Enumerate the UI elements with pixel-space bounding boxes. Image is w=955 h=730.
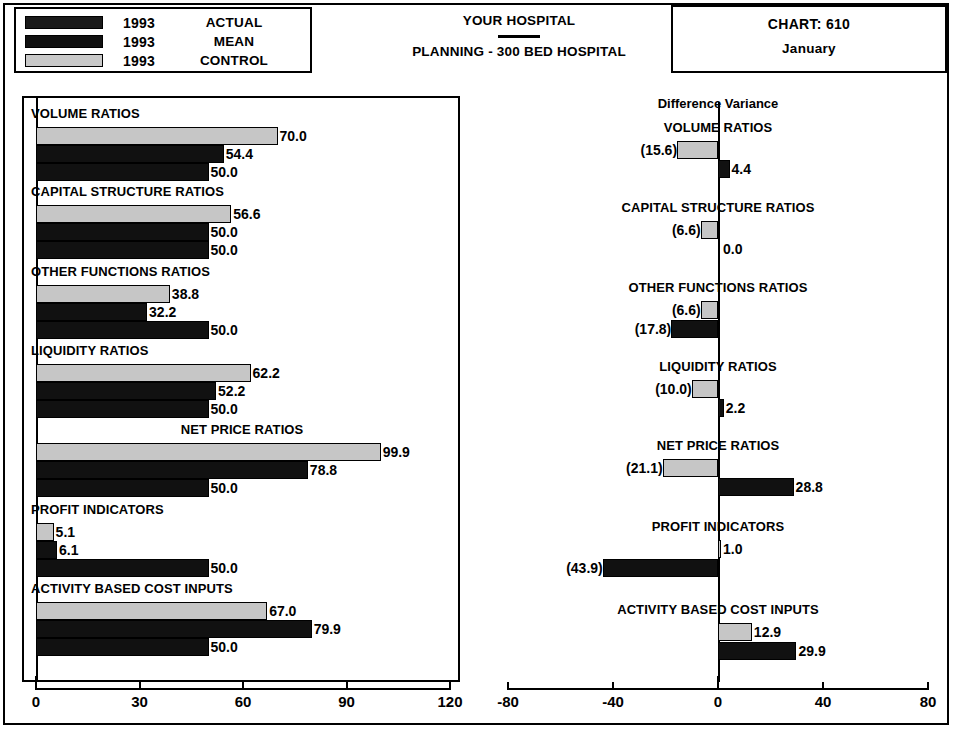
left-bar: [36, 127, 278, 145]
left-bar-value: 38.8: [172, 285, 199, 303]
axis-tick: [717, 676, 719, 690]
legend-label-mean: MEAN: [175, 34, 293, 49]
left-bar-value: 54.4: [226, 145, 253, 163]
left-bar-value: 67.0: [269, 602, 296, 620]
axis-tick-label: -80: [497, 693, 519, 710]
left-group-label: LIQUIDITY RATIOS: [24, 343, 460, 358]
title-divider: [498, 35, 540, 38]
chart-number-box: CHART: 610 January: [671, 5, 947, 73]
left-bar: [36, 303, 147, 321]
left-group-label: ACTIVITY BASED COST INPUTS: [24, 581, 460, 596]
left-group-label: CAPITAL STRUCTURE RATIOS: [24, 184, 460, 199]
left-bar: [36, 285, 170, 303]
legend-year-mean: 1993: [103, 34, 175, 50]
left-bar-value: 79.9: [314, 620, 341, 638]
right-bar-value: 29.9: [798, 642, 825, 660]
right-bar: [718, 642, 796, 660]
legend-row-actual: 1993 ACTUAL: [16, 13, 310, 32]
legend-row-mean: 1993 MEAN: [16, 32, 310, 51]
left-bar: [36, 400, 209, 418]
title-block: YOUR HOSPITAL PLANNING - 300 BED HOSPITA…: [405, 7, 633, 73]
left-bar: [36, 382, 216, 400]
plan-subtitle: PLANNING - 300 BED HOSPITAL: [405, 44, 633, 59]
left-bar-value: 56.6: [233, 205, 260, 223]
axis-tick: [822, 682, 824, 690]
right-bar-value: 2.2: [726, 399, 745, 417]
right-group-label: ACTIVITY BASED COST INPUTS: [498, 602, 938, 617]
right-bar-value: (17.8): [635, 320, 672, 338]
axis-tick-label: 40: [815, 693, 832, 710]
left-bar-value: 50.0: [211, 479, 238, 497]
left-bar: [36, 620, 312, 638]
left-bar: [36, 523, 54, 541]
legend-label-actual: ACTUAL: [175, 15, 293, 30]
axis-tick-label: 120: [437, 693, 462, 710]
right-bar: [671, 320, 718, 338]
legend-swatch-actual-icon: [25, 16, 103, 29]
axis-tick: [927, 682, 929, 690]
right-bar-value: (15.6): [640, 141, 677, 159]
right-zero-axis: [718, 102, 720, 682]
left-bar: [36, 443, 381, 461]
hospital-name: YOUR HOSPITAL: [405, 13, 633, 28]
legend-swatch-mean-icon: [25, 35, 103, 48]
axis-tick-label: 30: [131, 693, 148, 710]
chart-month: January: [673, 41, 945, 56]
right-group-label: NET PRICE RATIOS: [498, 438, 938, 453]
right-group-label: VOLUME RATIOS: [498, 120, 938, 135]
left-bar-value: 50.0: [211, 321, 238, 339]
right-bar: [718, 160, 730, 178]
right-bar-value: 12.9: [754, 623, 781, 641]
left-bar-value: 50.0: [211, 163, 238, 181]
left-bar: [36, 223, 209, 241]
left-group-label: NET PRICE RATIOS: [24, 422, 460, 437]
left-bar: [36, 163, 209, 181]
right-bar: [718, 623, 752, 641]
left-bar: [36, 321, 209, 339]
left-bar: [36, 241, 209, 259]
right-bar: [603, 559, 718, 577]
left-bar-value: 50.0: [211, 638, 238, 656]
header-band: 1993 ACTUAL 1993 MEAN 1993 CONTROL YOUR …: [5, 5, 947, 83]
left-bar-value: 99.9: [383, 443, 410, 461]
axis-tick-label: -40: [602, 693, 624, 710]
right-bar: [701, 301, 718, 319]
left-bar-value: 50.0: [211, 223, 238, 241]
right-bar: [692, 380, 718, 398]
right-chart-plot: Difference Variance VOLUME RATIOS(15.6)4…: [498, 96, 938, 682]
left-group-label: PROFIT INDICATORS: [24, 502, 460, 517]
axis-tick: [35, 676, 37, 690]
right-bar-value: 4.4: [732, 160, 751, 178]
right-x-axis: -80-4004080: [508, 682, 928, 716]
right-group-label: LIQUIDITY RATIOS: [498, 359, 938, 374]
left-bar: [36, 461, 308, 479]
axis-tick: [507, 682, 509, 690]
chart-number: CHART: 610: [673, 16, 945, 32]
right-bar-value: (6.6): [672, 301, 701, 319]
chart-page: 1993 ACTUAL 1993 MEAN 1993 CONTROL YOUR …: [0, 0, 955, 730]
right-bar: [701, 221, 718, 239]
left-bar-value: 6.1: [59, 541, 78, 559]
legend-row-control: 1993 CONTROL: [16, 51, 310, 70]
left-bar: [36, 364, 251, 382]
left-bar: [36, 638, 209, 656]
left-x-axis: 0306090120: [36, 682, 450, 716]
right-bar: [718, 540, 721, 558]
legend-year-actual: 1993: [103, 15, 175, 31]
legend-year-control: 1993: [103, 53, 175, 69]
right-bar-value: (10.0): [655, 380, 692, 398]
right-bar-value: (21.1): [626, 459, 663, 477]
left-bar: [36, 541, 57, 559]
right-bar: [663, 459, 718, 477]
left-bar: [36, 145, 224, 163]
left-bar: [36, 205, 231, 223]
left-bar-value: 50.0: [211, 559, 238, 577]
left-bar: [36, 479, 209, 497]
right-bar: [718, 478, 794, 496]
right-bar: [718, 399, 724, 417]
axis-tick: [242, 682, 244, 690]
right-bar-value: (6.6): [672, 221, 701, 239]
axis-tick: [346, 682, 348, 690]
right-bar-value: 28.8: [796, 478, 823, 496]
left-bar-value: 5.1: [56, 523, 75, 541]
